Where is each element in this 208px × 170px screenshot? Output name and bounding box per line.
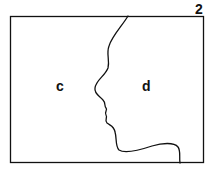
face-profile-contour xyxy=(95,16,180,163)
figure-diagram: 2 c d xyxy=(0,0,208,170)
region-label-d: d xyxy=(142,78,151,94)
region-label-c: c xyxy=(56,78,64,94)
figure-number: 2 xyxy=(195,1,203,17)
frame-border xyxy=(11,17,204,163)
